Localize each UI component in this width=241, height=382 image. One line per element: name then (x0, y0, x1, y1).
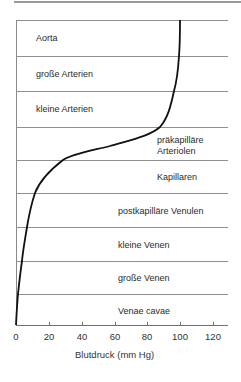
band-label-aorta: Aorta (36, 33, 58, 43)
band-label-kapillaren: Kapillaren (157, 172, 197, 182)
band-label-praekapillaere-line1: präkapilläre (157, 135, 204, 145)
x-axis-title: Blutdruck (mm Hg) (75, 349, 154, 360)
x-tick-label: 120 (205, 332, 221, 342)
band-label-kleine-venen: kleine Venen (118, 240, 170, 250)
x-tick-label: 60 (110, 332, 121, 342)
band-label-venae-cavae: Venae cavae (118, 306, 170, 316)
chart-plot (0, 0, 241, 382)
x-tick-label: 80 (142, 332, 153, 342)
x-tick-label: 100 (172, 332, 188, 342)
band-label-grosse-venen: große Venen (118, 273, 170, 283)
x-tick-label: 40 (77, 332, 88, 342)
x-tick-label: 0 (13, 332, 18, 342)
band-label-praekapillaere-line2: Arteriolen (157, 146, 196, 156)
band-label-postkapillaere-venulen: postkapilläre Venulen (118, 206, 204, 216)
band-label-grosse-arterien: große Arterien (36, 69, 93, 79)
band-separators (16, 21, 228, 295)
band-label-kleine-arterien: kleine Arterien (36, 104, 93, 114)
x-tick-label: 20 (44, 332, 55, 342)
